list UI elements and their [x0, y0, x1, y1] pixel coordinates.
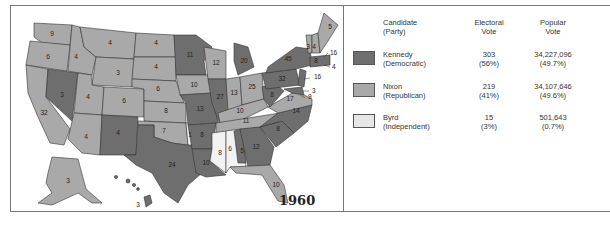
state-me	[318, 13, 338, 53]
svg-text:4: 4	[312, 43, 316, 50]
svg-text:10: 10	[272, 181, 280, 188]
svg-text:3: 3	[60, 91, 64, 98]
svg-text:8: 8	[164, 107, 168, 114]
svg-text:16: 16	[330, 49, 338, 56]
legend-row-kennedy: Kennedy(Democratic)	[383, 50, 453, 68]
legend-swatch-nixon	[353, 83, 375, 97]
svg-text:11: 11	[243, 117, 250, 124]
svg-text:12: 12	[252, 143, 260, 150]
svg-text:8: 8	[270, 91, 274, 98]
svg-text:32: 32	[278, 75, 286, 82]
svg-text:3: 3	[312, 87, 316, 94]
state-hi	[114, 175, 152, 207]
svg-text:14: 14	[292, 107, 300, 114]
svg-text:13: 13	[230, 89, 238, 96]
svg-text:4: 4	[86, 93, 90, 100]
svg-text:5: 5	[328, 23, 332, 30]
kennedy-popular: 34,227,096(49.7%)	[518, 50, 588, 68]
svg-text:10: 10	[190, 81, 198, 88]
svg-text:10: 10	[236, 107, 244, 114]
nixon-popular: 34,107,646(49.6%)	[518, 82, 588, 100]
svg-text:3: 3	[116, 69, 120, 76]
svg-text:6: 6	[228, 145, 232, 152]
svg-text:9: 9	[50, 30, 54, 37]
svg-text:3: 3	[306, 43, 310, 50]
svg-text:4: 4	[108, 39, 112, 46]
svg-text:45: 45	[284, 55, 292, 62]
svg-text:10: 10	[202, 159, 210, 166]
svg-text:13: 13	[196, 105, 204, 112]
legend-row-nixon: Nixon(Republican)	[383, 82, 453, 100]
svg-text:11: 11	[187, 51, 194, 58]
legend-row-byrd: Byrd(Independent)	[383, 113, 453, 131]
svg-text:7: 7	[162, 127, 166, 134]
figure-divider	[343, 5, 344, 212]
legend-swatch-kennedy	[353, 51, 375, 65]
svg-text:1: 1	[188, 131, 192, 138]
state-nj	[298, 69, 306, 87]
svg-text:32: 32	[40, 109, 48, 116]
svg-text:6: 6	[46, 53, 50, 60]
svg-text:4: 4	[74, 53, 78, 60]
svg-text:6: 6	[122, 97, 126, 104]
svg-text:20: 20	[240, 57, 248, 64]
svg-text:3: 3	[66, 177, 70, 184]
svg-text:3: 3	[136, 201, 140, 208]
svg-text:4: 4	[84, 133, 88, 140]
legend-panel: Candidate(Party) ElectoralVote PopularVo…	[346, 8, 604, 208]
svg-text:27: 27	[216, 93, 224, 100]
header-electoral-vote: ElectoralVote	[464, 18, 514, 36]
svg-text:24: 24	[168, 161, 176, 168]
state-ct-ri-ma	[310, 55, 330, 67]
byrd-electoral: 15(3%)	[464, 113, 514, 131]
svg-text:25: 25	[248, 83, 256, 90]
kennedy-electoral: 303(56%)	[464, 50, 514, 68]
svg-text:4: 4	[116, 129, 120, 136]
state-wy	[92, 57, 134, 87]
svg-text:4: 4	[154, 39, 158, 46]
svg-text:4: 4	[332, 63, 336, 70]
svg-text:8: 8	[200, 131, 204, 138]
legend-swatch-byrd	[353, 114, 375, 128]
svg-text:8: 8	[218, 149, 222, 156]
svg-text:5: 5	[240, 147, 244, 154]
svg-text:6: 6	[156, 85, 160, 92]
byrd-popular: 501,643(0.7%)	[518, 113, 588, 131]
svg-text:4: 4	[154, 63, 158, 70]
nixon-electoral: 219(41%)	[464, 82, 514, 100]
us-electoral-map: 96323 4434 4644 4687 1241110 1381012 272…	[12, 7, 342, 210]
svg-text:17: 17	[286, 95, 294, 102]
state-ak	[38, 157, 102, 205]
svg-text:8: 8	[276, 125, 280, 132]
svg-text:9: 9	[308, 93, 312, 100]
header-popular-vote: PopularVote	[518, 18, 588, 36]
svg-text:8: 8	[314, 57, 318, 64]
svg-text:12: 12	[212, 59, 220, 66]
election-year-label: 1960	[279, 193, 315, 208]
svg-text:16: 16	[314, 73, 322, 80]
header-candidate: Candidate(Party)	[383, 18, 453, 36]
